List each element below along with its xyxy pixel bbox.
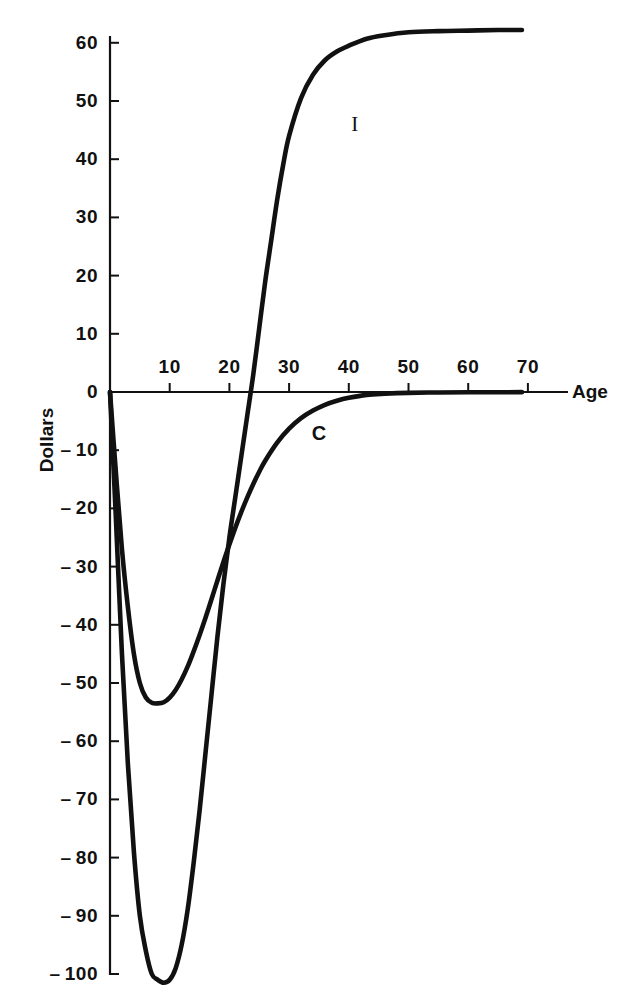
- x-tick-label: 60: [457, 356, 479, 378]
- y-tick-label: – 100: [49, 963, 98, 985]
- x-tick-label: 70: [517, 356, 539, 378]
- y-tick-label: – 50: [60, 672, 98, 694]
- y-tick-label: 60: [76, 32, 98, 54]
- x-tick-label: 30: [278, 356, 300, 378]
- series-label-c: C: [312, 421, 326, 444]
- y-axis-title: Dollars: [36, 408, 58, 472]
- x-axis-title: Age: [572, 381, 608, 403]
- y-tick-label: – 60: [60, 730, 98, 752]
- y-tick-label: – 90: [60, 905, 98, 927]
- y-tick-label: – 30: [60, 556, 98, 578]
- x-tick-label: 50: [397, 356, 419, 378]
- y-tick-label: 30: [76, 206, 98, 228]
- axes-group: [110, 36, 568, 975]
- x-tick-label: 40: [338, 356, 360, 378]
- y-tick-label: – 70: [60, 788, 98, 810]
- y-tick-label: 50: [76, 90, 98, 112]
- y-tick-label: – 10: [60, 439, 98, 461]
- y-tick-label: 0: [87, 381, 98, 403]
- series-label-i: I: [351, 112, 358, 137]
- y-tick-label: – 40: [60, 614, 98, 636]
- x-tick-label: 10: [159, 356, 181, 378]
- y-tick-label: 40: [76, 148, 98, 170]
- y-tick-label: – 20: [60, 497, 98, 519]
- y-tick-label: 20: [76, 265, 98, 287]
- chart-figure: 6050403020100– 10– 20– 30– 40– 50– 60– 7…: [0, 0, 641, 1008]
- series-line-I: [110, 30, 522, 983]
- series-group: [110, 30, 522, 983]
- y-tick-label: – 80: [60, 847, 98, 869]
- y-tick-label: 10: [76, 323, 98, 345]
- x-tick-label: 20: [218, 356, 240, 378]
